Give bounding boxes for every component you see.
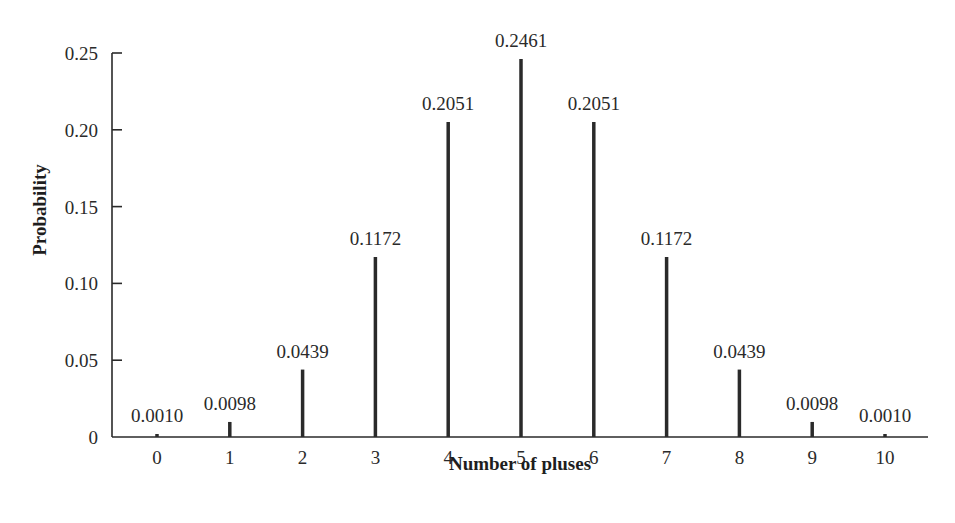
x-tick-label: 10 [876, 447, 895, 468]
data-label: 0.2051 [422, 93, 474, 114]
data-label: 0.2051 [568, 93, 620, 114]
data-label: 0.1172 [350, 228, 402, 249]
data-label: 0.0098 [786, 393, 838, 414]
data-label: 0.2461 [495, 30, 547, 51]
data-label: 0.0010 [131, 405, 183, 426]
data-label: 0.0010 [859, 405, 911, 426]
y-tick-label: 0.25 [65, 43, 98, 64]
data-label: 0.0439 [713, 341, 765, 362]
x-tick-label: 9 [807, 447, 817, 468]
y-axis-title: Probability [29, 164, 50, 256]
probability-distribution-chart: 00.050.100.150.200.25 012345678910 0.001… [0, 0, 955, 523]
x-tick-label: 2 [298, 447, 308, 468]
x-tick-label: 8 [735, 447, 745, 468]
bars [157, 59, 885, 437]
data-label: 0.0439 [276, 341, 328, 362]
y-tick-label: 0.10 [65, 273, 98, 294]
y-axis: 00.050.100.150.200.25 [65, 43, 122, 448]
data-label: 0.1172 [641, 228, 693, 249]
y-tick-label: 0.05 [65, 350, 98, 371]
y-tick-label: 0.20 [65, 120, 98, 141]
x-tick-label: 7 [662, 447, 672, 468]
x-tick-label: 0 [152, 447, 162, 468]
x-axis-title: Number of pluses [449, 453, 591, 474]
x-tick-label: 1 [225, 447, 235, 468]
y-tick-label: 0 [89, 427, 99, 448]
y-tick-label: 0.15 [65, 197, 98, 218]
x-tick-label: 3 [371, 447, 381, 468]
data-label: 0.0098 [204, 393, 256, 414]
